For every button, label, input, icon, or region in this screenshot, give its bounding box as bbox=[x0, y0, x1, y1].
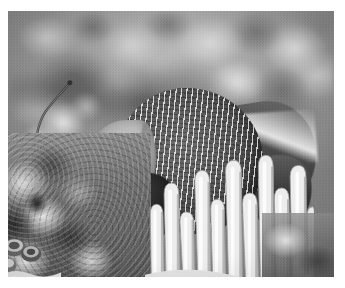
photo-frame bbox=[0, 0, 345, 288]
underwater-photograph bbox=[8, 11, 334, 277]
vignette bbox=[8, 11, 334, 277]
